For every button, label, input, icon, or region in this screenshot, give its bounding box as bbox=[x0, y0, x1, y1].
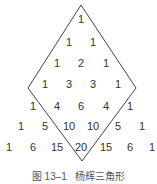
cell-r5-c3: 10 bbox=[87, 120, 99, 132]
cell-r4-c4: 1 bbox=[127, 100, 133, 112]
cell-r6-c5: 6 bbox=[127, 141, 133, 153]
cell-r4-c2: 6 bbox=[78, 100, 84, 112]
cell-r6-c6: 1 bbox=[149, 141, 155, 153]
cell-r4-c1: 4 bbox=[54, 100, 60, 112]
yang-hui-triangle-diagram: 1 1 1 1 2 1 1 3 3 1 1 4 6 4 1 1 5 10 10 … bbox=[0, 0, 157, 184]
diamond-outline bbox=[0, 0, 157, 184]
cell-r5-c2: 10 bbox=[63, 120, 75, 132]
cell-r6-c2: 15 bbox=[51, 141, 63, 153]
cell-r3-c1: 3 bbox=[66, 78, 72, 90]
cell-r4-c3: 4 bbox=[103, 100, 109, 112]
cell-r0-c0: 1 bbox=[78, 13, 84, 25]
cell-r3-c2: 3 bbox=[90, 78, 96, 90]
cell-r3-c3: 1 bbox=[115, 78, 121, 90]
cell-r5-c1: 5 bbox=[42, 120, 48, 132]
cell-r3-c0: 1 bbox=[42, 78, 48, 90]
cell-r6-c4: 15 bbox=[100, 141, 112, 153]
cell-r2-c0: 1 bbox=[54, 57, 60, 69]
cell-r6-c3: 20 bbox=[75, 141, 87, 153]
cell-r1-c0: 1 bbox=[66, 36, 72, 48]
cell-r5-c5: 1 bbox=[139, 120, 145, 132]
cell-r5-c0: 1 bbox=[18, 120, 24, 132]
figure-title: 杨辉三角形 bbox=[75, 171, 125, 182]
cell-r2-c1: 2 bbox=[78, 57, 84, 69]
cell-r6-c0: 1 bbox=[6, 141, 12, 153]
figure-label: 图 13–1 bbox=[32, 171, 67, 182]
cell-r2-c2: 1 bbox=[103, 57, 109, 69]
cell-r1-c1: 1 bbox=[90, 36, 96, 48]
cell-r4-c0: 1 bbox=[30, 100, 36, 112]
figure-caption: 图 13–1 杨辉三角形 bbox=[0, 168, 157, 183]
cell-r5-c4: 5 bbox=[115, 120, 121, 132]
cell-r6-c1: 6 bbox=[30, 141, 36, 153]
